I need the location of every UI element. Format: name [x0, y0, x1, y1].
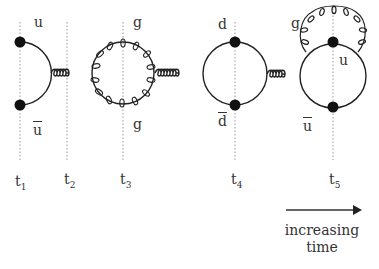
vertex-u-top: [15, 37, 26, 48]
label-ubar-left: u: [33, 123, 42, 137]
label-dbar: d: [218, 114, 227, 128]
label-ubar-right: u: [303, 119, 312, 133]
time-caption: increasing time: [282, 222, 362, 256]
gluon-line-3: [267, 70, 285, 77]
vertex-ubar-right: [328, 102, 339, 113]
vertex-ubar-left: [15, 100, 26, 111]
quark-arc-1: [20, 42, 52, 105]
time-label-t5: t5: [329, 172, 340, 186]
time-arrow: [286, 205, 362, 215]
gluon-line-2: [155, 69, 179, 76]
vertex-dbar: [230, 100, 241, 111]
vertex-d: [230, 37, 241, 48]
caption-line-2: time: [282, 239, 362, 256]
label-u-top: u: [34, 15, 43, 29]
time-guides: [20, 5, 333, 160]
time-label-t3: t3: [120, 172, 131, 186]
label-g-bottom: g: [133, 117, 142, 131]
time-label-t2: t2: [64, 172, 75, 186]
gluon-line-1: [51, 69, 69, 76]
time-label-t1: t1: [15, 174, 26, 188]
label-g-self: g: [291, 16, 300, 30]
label-g-top: g: [133, 15, 142, 29]
vertex-u-right: [328, 37, 339, 48]
label-u-right: u: [339, 53, 348, 67]
caption-line-1: increasing: [282, 222, 362, 239]
label-d: d: [218, 17, 227, 31]
time-label-t4: t4: [231, 172, 242, 186]
